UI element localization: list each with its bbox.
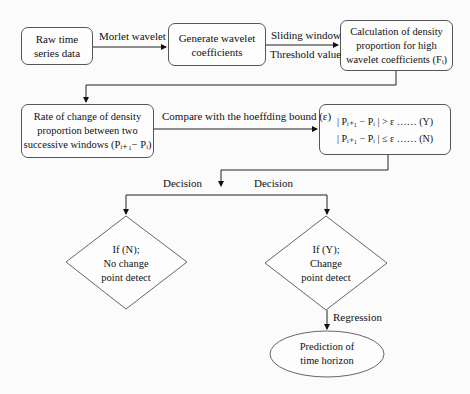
- condition-no: | Pᵢ₊₁ − Pᵢ | ≤ ε …… (N): [337, 130, 433, 147]
- node-text: Rate of change of density: [34, 110, 141, 124]
- node-text: No change: [86, 257, 166, 271]
- node-text: If (N);: [86, 243, 166, 257]
- flowchart-canvas: Raw time series data Generate wavelet co…: [0, 0, 470, 394]
- node-change-point: If (Y); Change point detect: [286, 243, 366, 285]
- node-text: point detect: [286, 271, 366, 285]
- node-text: Prediction of: [282, 340, 372, 354]
- node-text: series data: [34, 46, 80, 60]
- node-text: Generate wavelet: [179, 31, 256, 45]
- node-raw-time-series: Raw time series data: [21, 27, 93, 65]
- edge-label-regression: Regression: [333, 311, 382, 324]
- node-calculation-density: Calculation of density proportion for hi…: [340, 20, 453, 71]
- node-text: proportion for high: [356, 39, 437, 53]
- node-text: If (Y);: [286, 243, 366, 257]
- edge-label-sliding-window: Sliding window: [271, 29, 341, 42]
- node-text: time horizon: [282, 354, 372, 368]
- edge-label-decision-left: Decision: [163, 177, 202, 190]
- edge-compare-decision: [221, 154, 388, 186]
- node-text: proportion between two: [37, 124, 137, 138]
- node-text: point detect: [86, 271, 166, 285]
- node-text: Raw time: [36, 32, 78, 46]
- edge-label-compare-hoeffding: Compare with the hoeffding bound (ε): [162, 110, 331, 123]
- node-rate-of-change: Rate of change of density proportion bet…: [21, 104, 154, 158]
- node-prediction-time-horizon: Prediction of time horizon: [282, 340, 372, 368]
- edge-label-morlet: Morlet wavelet: [99, 30, 166, 43]
- edge-label-decision-right: Decision: [254, 177, 293, 190]
- node-compare-conditions: | Pᵢ₊₁ − Pᵢ | > ε …… (Y) | Pᵢ₊₁ − Pᵢ | ≤…: [319, 104, 451, 155]
- node-generate-wavelet: Generate wavelet coefficients: [168, 23, 266, 66]
- node-text: Change: [286, 257, 366, 271]
- node-text: wavelet coefficients (Fᵢ): [346, 53, 447, 67]
- condition-yes: | Pᵢ₊₁ − Pᵢ | > ε …… (Y): [337, 113, 433, 130]
- node-text: coefficients: [191, 45, 242, 59]
- node-text: Calculation of density: [350, 25, 443, 39]
- edge-calc-rate: [86, 70, 396, 102]
- edge-label-threshold: Threshold value: [270, 48, 341, 61]
- node-text: successive windows (Pᵢ₊₁− Pᵢ): [24, 138, 152, 152]
- node-no-change-point: If (N); No change point detect: [86, 243, 166, 285]
